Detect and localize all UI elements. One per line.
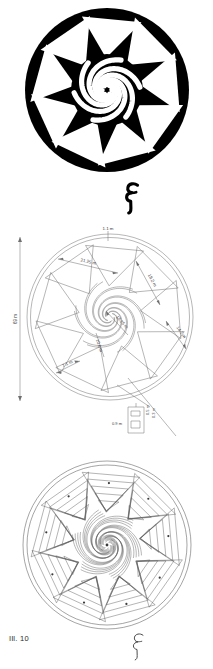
dimension-top-apex: 1.1 m: [103, 226, 114, 242]
detail-label-depth: 0.3 m: [151, 407, 156, 418]
dimension-lower-left: 7.1 m: [56, 359, 80, 374]
contour-blades: [31, 472, 182, 622]
panel-silhouette: [0, 0, 213, 225]
dimension-right: 14.1 m: [166, 321, 187, 349]
panel-contour-rendering: [0, 455, 213, 669]
plan-inner-circle: [31, 238, 190, 397]
detail-label-width: 0.9 m: [112, 421, 123, 426]
spiral-scroll-mark-icon: [118, 181, 148, 215]
dimension-overall-height: 69 m: [13, 237, 22, 401]
contour-svg: [0, 455, 213, 669]
detail-box: 0.9 m 0.5 m 0.3 m: [112, 403, 156, 433]
panel-measured-plan: 69 m 1.1 m 21.25 m 18.2 m: [0, 225, 213, 455]
dimension-label-overall-height: 69 m: [13, 314, 18, 324]
dimension-label-right: 14.1 m: [175, 325, 187, 339]
silhouette-svg: [0, 0, 213, 225]
silhouette-disc: [25, 8, 189, 172]
plan-outer-circle: [27, 234, 193, 400]
dimension-label-upper-right: 18.2 m: [147, 273, 158, 287]
spiral-rosette: [71, 54, 143, 126]
figure-page: 69 m 1.1 m 21.25 m 18.2 m: [0, 0, 213, 669]
measured-plan-svg: 69 m 1.1 m 21.25 m 18.2 m: [0, 225, 213, 455]
plan-pinwheel-blades: [35, 245, 184, 393]
contour-spiral-core: [73, 510, 142, 580]
detail-label-height: 0.5 m: [145, 404, 150, 415]
dimension-label-top-apex: 1.1 m: [103, 226, 114, 231]
dimension-upper-left: 21.25 m: [58, 257, 118, 274]
dimension-upper-right: 18.2 m: [136, 261, 160, 305]
dimension-label-core-inner: 10.6 m: [95, 339, 104, 353]
spiral-scroll-mark-icon-bottom: [126, 631, 152, 664]
figure-caption: Ill. 10: [9, 634, 29, 643]
